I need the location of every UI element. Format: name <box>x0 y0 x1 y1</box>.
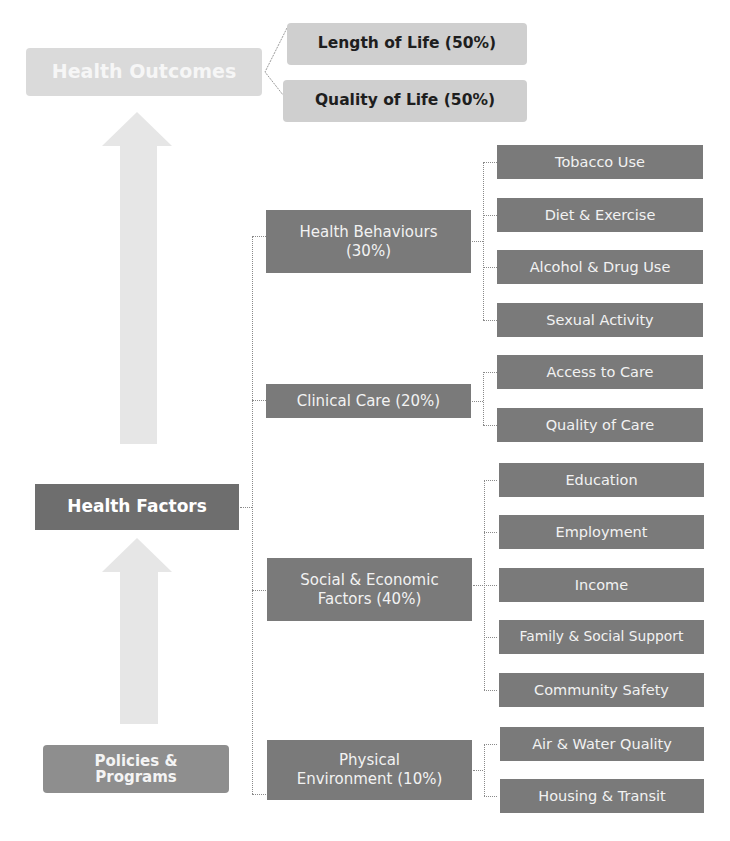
leaf-quality-of-care: Quality of Care <box>497 408 703 442</box>
leaf-income: Income <box>499 568 704 602</box>
leaf-employment: Employment <box>499 515 704 549</box>
connector-group <box>483 162 484 320</box>
connector-leaf <box>483 267 497 268</box>
connector-leaf <box>484 532 497 533</box>
factor-physical-environment: Physical Environment (10%) <box>267 740 472 800</box>
factor-social-economic: Social & Economic Factors (40%) <box>267 558 472 621</box>
connector-root <box>240 507 252 508</box>
leaf-air-water-quality: Air & Water Quality <box>500 727 704 761</box>
leaf-access-to-care: Access to Care <box>497 355 703 389</box>
health-factors-label: Health Factors <box>67 496 207 517</box>
connector-branch <box>252 794 266 795</box>
connector-branch <box>252 590 266 591</box>
leaf-tobacco-use: Tobacco Use <box>497 145 703 179</box>
connector-leaf <box>484 585 497 586</box>
connector-leaf <box>483 215 497 216</box>
factor-clinical-care: Clinical Care (20%) <box>266 384 471 418</box>
connector-leaf <box>484 480 497 481</box>
connector-branch <box>252 400 266 401</box>
connector-leaf <box>483 320 497 321</box>
connector-stub <box>472 241 483 242</box>
health-factors-node: Health Factors <box>35 484 239 530</box>
leaf-education: Education <box>499 463 704 497</box>
connector-trunk <box>252 236 253 794</box>
leaf-family-social-support: Family & Social Support <box>499 620 704 654</box>
connector-leaf <box>483 425 497 426</box>
outcome-quality-of-life: Quality of Life (50%) <box>283 80 527 122</box>
connector-group <box>484 744 485 796</box>
connector-leaf <box>484 744 497 745</box>
outcome-length-of-life: Length of Life (50%) <box>287 23 527 65</box>
leaf-sexual-activity: Sexual Activity <box>497 303 703 337</box>
leaf-community-safety: Community Safety <box>499 673 704 707</box>
connector-leaf <box>484 796 497 797</box>
connector-group <box>483 372 484 425</box>
connector-branch <box>252 236 266 237</box>
connector-leaf <box>483 372 497 373</box>
connector-leaf <box>484 637 497 638</box>
leaf-housing-transit: Housing & Transit <box>500 779 704 813</box>
connector-stub <box>472 401 483 402</box>
factor-health-behaviours: Health Behaviours (30%) <box>266 210 471 273</box>
connector-stub <box>473 770 483 771</box>
connector-leaf <box>484 690 497 691</box>
leaf-diet-exercise: Diet & Exercise <box>497 198 703 232</box>
policies-programs-node: Policies & Programs <box>43 745 229 793</box>
leaf-alcohol-drug-use: Alcohol & Drug Use <box>497 250 703 284</box>
connector-leaf <box>483 162 497 163</box>
connector-stub <box>473 585 483 586</box>
